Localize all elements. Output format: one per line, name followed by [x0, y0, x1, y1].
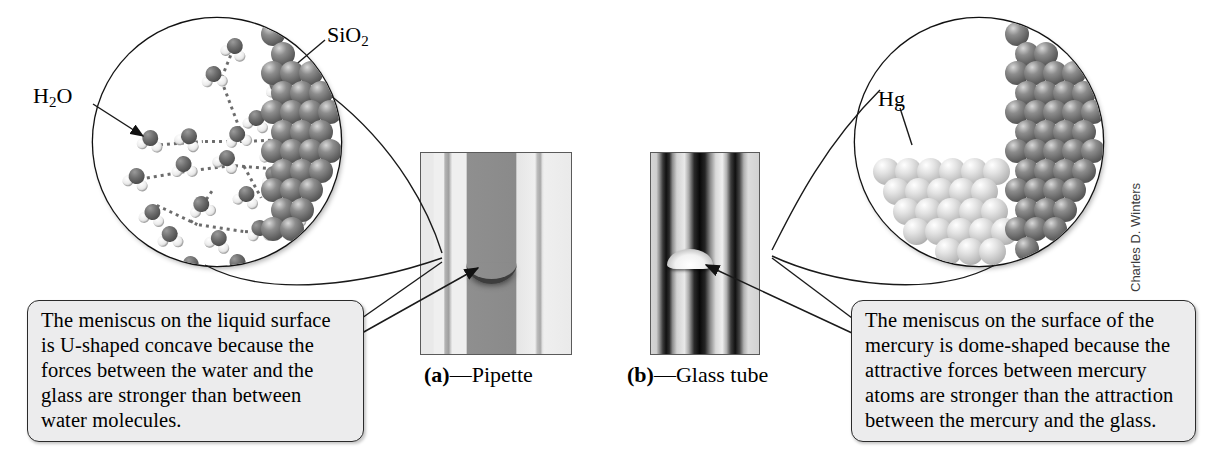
water-molecule: [224, 252, 253, 266]
water-molecule: [170, 154, 199, 179]
photo-credit: Charles D. Winters: [1128, 183, 1143, 292]
oxygen-atom: [229, 253, 247, 266]
silica-atom: [1043, 217, 1067, 241]
water-molecule: [202, 227, 233, 255]
water-molecule: [175, 254, 205, 266]
water-meniscus-concave: [466, 263, 517, 284]
figure-root: H2O SiO2 Hg (a)—Pipette (b)—Glass tube C…: [0, 0, 1210, 455]
callout-line: water molecules.: [41, 408, 352, 433]
water-meniscus-callout: The meniscus on the liquid surface is U-…: [27, 300, 364, 442]
water-silica-zoom-circle: [93, 18, 341, 266]
callout-line: mercury is dome-shaped because the: [865, 333, 1184, 358]
mercury-atom: [979, 238, 1006, 265]
pipette-caption-text: Pipette: [472, 362, 533, 387]
sio2-label-text: SiO: [327, 22, 361, 47]
glass-tube-caption: (b)—Glass tube: [627, 362, 768, 388]
glass-tube-caption-dash: —: [654, 362, 676, 387]
water-molecule: [231, 184, 260, 210]
h2o-label-tail: O: [56, 83, 72, 108]
callout-line: between the mercury and the glass.: [865, 408, 1184, 433]
h2o-label: H2O: [33, 83, 72, 111]
water-molecule: [270, 246, 299, 266]
callout-line: glass are stronger than between: [41, 383, 352, 408]
silica-atom: [280, 217, 304, 241]
hg-label-text: Hg: [878, 86, 905, 111]
oxygen-atom: [181, 255, 200, 266]
callout-line: The meniscus on the liquid surface: [41, 308, 352, 333]
callout-line: attractive forces between mercury: [865, 358, 1184, 383]
sio2-label: SiO2: [327, 22, 369, 50]
hg-label: Hg: [878, 86, 905, 112]
water-molecule: [187, 193, 218, 221]
water-molecule: [138, 202, 167, 227]
callout-line: forces between the water and the: [41, 358, 352, 383]
pipette-photograph: [420, 152, 572, 355]
pipette-caption: (a)—Pipette: [424, 362, 533, 388]
glass-tube-caption-text: Glass tube: [676, 362, 768, 387]
water-molecule: [172, 124, 204, 154]
glass-tube-caption-marker: (b): [627, 362, 654, 387]
water-molecule: [210, 147, 242, 176]
silica-atom: [1015, 237, 1039, 261]
water-molecule: [121, 166, 151, 193]
sio2-label-sub: 2: [361, 33, 368, 49]
callout-line: atoms are stronger than the attraction: [865, 383, 1184, 408]
pipette-caption-dash: —: [450, 362, 472, 387]
h2o-label-text: H: [33, 83, 49, 108]
water-molecule: [219, 35, 250, 63]
water-molecule: [199, 64, 228, 90]
right-callout-leader: [772, 258, 852, 318]
pipette-caption-marker: (a): [424, 362, 450, 387]
callout-line: is U-shaped concave because the: [41, 333, 352, 358]
mercury-silica-zoom-circle: [855, 18, 1103, 266]
water-molecule: [156, 225, 184, 250]
glass-tube-photograph: [650, 152, 760, 355]
mercury-meniscus-callout: The meniscus on the surface of the mercu…: [851, 300, 1196, 442]
mercury-meniscus-convex: [667, 249, 713, 269]
water-molecule: [136, 129, 164, 153]
callout-line: The meniscus on the surface of the: [865, 308, 1184, 333]
